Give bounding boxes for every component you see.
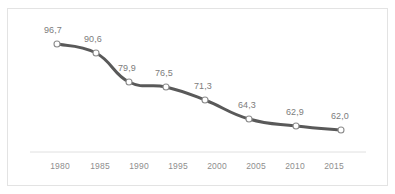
data-point-marker[interactable] <box>93 50 99 56</box>
x-axis-tick-label: 2010 <box>279 161 311 171</box>
data-value-label: 79,9 <box>118 63 136 73</box>
x-axis-tick-label: 1995 <box>162 161 194 171</box>
x-axis-tick-label: 1980 <box>44 161 76 171</box>
data-point-marker[interactable] <box>338 127 344 133</box>
data-value-label: 62,0 <box>331 111 349 121</box>
line-chart: 96,790,679,976,571,364,362,962,0 1980198… <box>0 0 395 194</box>
x-axis-tick-label: 1990 <box>123 161 155 171</box>
x-axis-tick-label: 2015 <box>318 161 350 171</box>
data-point-marker[interactable] <box>163 84 169 90</box>
data-value-label: 76,5 <box>155 68 173 78</box>
data-point-marker[interactable] <box>202 97 208 103</box>
data-value-label: 64,3 <box>238 100 256 110</box>
x-axis-tick-label: 2000 <box>201 161 233 171</box>
data-value-label: 62,9 <box>286 107 304 117</box>
data-value-label: 96,7 <box>44 25 62 35</box>
data-point-marker[interactable] <box>293 123 299 129</box>
x-axis-tick-label: 2005 <box>240 161 272 171</box>
data-point-marker[interactable] <box>126 79 132 85</box>
data-value-label: 90,6 <box>84 34 102 44</box>
data-point-marker[interactable] <box>54 41 60 47</box>
data-point-marker[interactable] <box>246 116 252 122</box>
data-value-label: 71,3 <box>194 81 212 91</box>
x-axis-tick-label: 1985 <box>84 161 116 171</box>
